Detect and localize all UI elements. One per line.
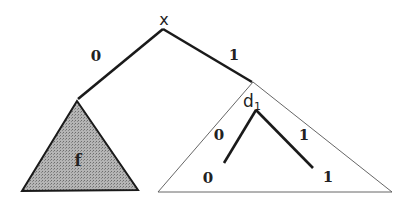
root-right-edge-label: 1 <box>229 46 239 64</box>
d1-right-leaf: 1 <box>323 168 333 186</box>
d1-left-edge-label: 0 <box>214 126 224 144</box>
d1-right-edge-label: 1 <box>299 126 309 144</box>
right-subtree-triangle <box>158 82 392 192</box>
root-node-label: x <box>159 10 168 29</box>
d1-left-leaf: 0 <box>203 169 213 187</box>
left-subtree-triangle <box>22 101 138 191</box>
root-left-edge-label: 0 <box>91 47 101 65</box>
decision-tree-diagram: x 0 1 f d1 0 1 0 1 <box>0 0 412 203</box>
left-subtree-label: f <box>75 151 83 170</box>
d1-node-main: d <box>243 91 254 111</box>
